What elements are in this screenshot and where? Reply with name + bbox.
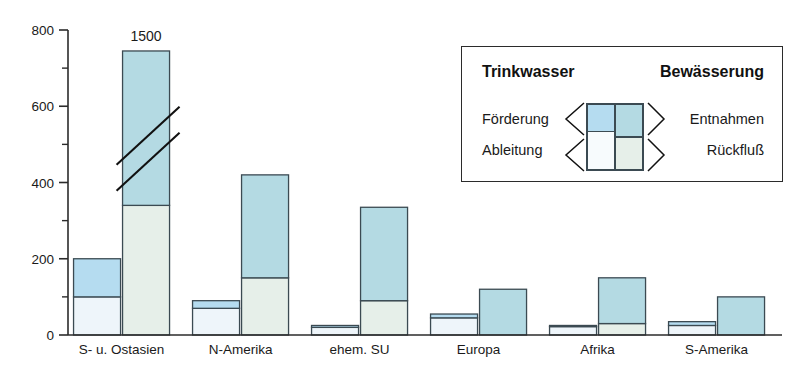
y-tick-label: 0 — [46, 328, 54, 343]
legend-swatch-rueckfluss — [615, 137, 643, 170]
legend-label-ableitung: Ableitung — [482, 142, 542, 158]
bracket-stroke — [566, 139, 584, 171]
chart-container: 0200400600800 1500 S- u. OstasienN-Ameri… — [0, 0, 789, 376]
bar-value-label: 1500 — [130, 28, 161, 44]
x-axis-category-label: S- u. Ostasien — [79, 342, 165, 357]
legend-bracket-right-lower-icon — [646, 137, 666, 173]
legend-titles: Trinkwasser Bewässerung — [462, 63, 782, 81]
bar-bewaesserung-4-entnahmen — [599, 278, 646, 324]
legend-label-rueckfluss: Rückfluß — [707, 142, 764, 158]
bar-bewaesserung-1-entnahmen — [242, 175, 289, 278]
bar-trinkwasser-4-ableitung — [550, 327, 597, 335]
bracket-stroke — [566, 103, 584, 135]
bar-bewaesserung-3-entnahmen — [480, 289, 527, 335]
legend-bracket-left-icon — [564, 101, 584, 137]
bar-bewaesserung-0-rckflu — [123, 205, 170, 335]
legend-label-entnahmen: Entnahmen — [690, 111, 764, 127]
bar-trinkwasser-5-ableitung — [669, 325, 716, 335]
x-axis-category-label: S-Amerika — [685, 342, 749, 357]
bar-trinkwasser-0-ableitung — [74, 297, 121, 335]
bar-trinkwasser-1-ableitung — [193, 308, 240, 335]
legend-bracket-left-lower-icon — [564, 137, 584, 173]
x-axis-category-label: Europa — [457, 342, 501, 357]
x-axis-category-labels: S- u. OstasienN-Amerikaehem. SUEuropaAfr… — [79, 342, 749, 357]
legend-label-foerderung: Förderung — [482, 111, 549, 127]
value-labels: 1500 — [130, 28, 161, 44]
axis-ticks — [59, 30, 68, 335]
bar-trinkwasser-5-frderung — [669, 322, 716, 326]
legend-title-bewaesserung: Bewässerung — [660, 63, 764, 81]
bar-bewaesserung-2-entnahmen — [361, 207, 408, 300]
x-axis-category-label: ehem. SU — [330, 342, 390, 357]
y-axis-tick-labels: 0200400600800 — [31, 23, 54, 343]
bar-bewaesserung-0-entnahmen — [123, 51, 170, 205]
bar-trinkwasser-1-frderung — [193, 301, 240, 309]
legend-swatch-entnahmen — [615, 104, 643, 137]
x-axis-category-label: N-Amerika — [209, 342, 273, 357]
bar-trinkwasser-3-ableitung — [431, 318, 478, 335]
y-tick-label: 200 — [31, 252, 54, 267]
bar-bewaesserung-4-rckflu — [599, 324, 646, 335]
bar-trinkwasser-2-frderung — [312, 325, 359, 327]
bracket-stroke — [648, 103, 664, 135]
legend-title-trinkwasser: Trinkwasser — [482, 63, 575, 81]
bar-trinkwasser-2-ableitung — [312, 327, 359, 335]
legend-bracket-right-icon — [646, 101, 666, 137]
y-tick-label: 800 — [31, 23, 54, 38]
bracket-stroke — [648, 139, 664, 171]
bar-bewaesserung-5-entnahmen — [718, 297, 765, 335]
bar-trinkwasser-0-frderung — [74, 259, 121, 297]
bar-bewaesserung-1-rckflu — [242, 278, 289, 335]
x-axis-category-label: Afrika — [580, 342, 615, 357]
legend-swatch-ableitung — [587, 131, 615, 170]
legend: Trinkwasser Bewässerung Förderung Entnah… — [461, 46, 783, 182]
bar-bewaesserung-2-rckflu — [361, 301, 408, 335]
y-tick-label: 400 — [31, 176, 54, 191]
legend-swatch-icon — [586, 103, 644, 171]
y-tick-label: 600 — [31, 99, 54, 114]
bar-trinkwasser-3-frderung — [431, 314, 478, 318]
bar-trinkwasser-4-frderung — [550, 325, 597, 326]
